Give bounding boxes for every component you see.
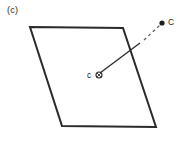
diagram-canvas bbox=[0, 0, 184, 144]
point-marker-c-lower bbox=[96, 72, 102, 78]
parallelogram-outline bbox=[30, 27, 156, 127]
point-label-c-lower: c bbox=[87, 70, 91, 80]
connector-line-dashed bbox=[144, 25, 160, 40]
point-marker-C-upper bbox=[159, 20, 164, 25]
point-label-C-upper: C bbox=[168, 17, 174, 27]
figure-panel-c: (c) C c bbox=[0, 0, 184, 144]
